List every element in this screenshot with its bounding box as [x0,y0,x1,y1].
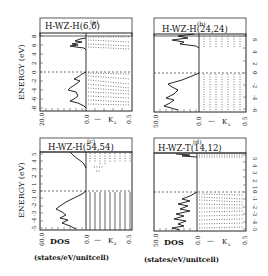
svg-text:1: 1 [31,183,37,187]
svg-text:-8: -8 [31,105,37,111]
svg-text:2: 2 [252,179,258,183]
panel-d-plot: H-WZ-T(14,12) (d) 543210-1-2-3-4-5 50.0 … [134,138,268,276]
svg-text:8: 8 [31,34,37,38]
dos-tick-max: 60.0 [38,232,45,246]
svg-text:3: 3 [252,171,258,175]
svg-text:-2: -2 [31,203,37,208]
y-axis-label: ENERGY (eV) [17,162,26,218]
svg-text:z: z [228,242,231,247]
y-axis-label: ENERGY (eV) [17,44,26,100]
panel-d-label: (d) [193,138,202,145]
svg-text:5: 5 [31,152,37,156]
svg-text:-5: -5 [252,226,258,232]
panel-b-title: H-WZ-H(24,24) [162,24,228,34]
units-label: (states/eV/unitcell) [34,253,109,262]
svg-text:-1: -1 [31,196,37,201]
svg-text:2: 2 [252,62,258,66]
svg-text:0: 0 [31,70,37,74]
svg-text:4: 4 [31,159,37,163]
panel-c-title: H-WZ-H(54,54) [48,142,114,152]
dos-label: DOS [164,237,184,247]
svg-text:-6: -6 [31,96,37,102]
svg-text:-2: -2 [31,79,37,84]
svg-text:6: 6 [31,43,37,47]
panel-b-label: (b) [197,20,206,27]
dos-tick-zero: 0.0 [195,116,202,126]
panel-c-label: (c) [87,137,95,144]
panel-d-title: H-WZ-T(14,12) [158,143,222,153]
svg-text:5: 5 [252,157,258,161]
kz-tick-max: 0.5 [125,114,132,124]
svg-text:-4: -4 [31,217,37,223]
svg-text:-4: -4 [31,87,37,93]
dos-label: DOS [50,236,70,246]
svg-text:-2: -2 [252,204,258,209]
svg-text:-1: -1 [252,196,258,201]
kz-tick-max: 0.5 [125,234,132,244]
svg-text:-4: -4 [252,219,258,225]
svg-text:-5: -5 [31,225,37,231]
kz-tick-max: 0.5 [241,235,248,245]
dos-tick-zero: 0.0 [83,234,90,244]
svg-text:-2: -2 [252,83,258,88]
kz-arrow: — [94,115,101,123]
svg-text:z: z [114,241,117,246]
kz-arrow: — [207,237,214,245]
svg-text:0: 0 [252,71,258,75]
kz-arrow: — [208,117,215,125]
kz-tick-max: 0.5 [241,116,248,126]
svg-text:6: 6 [252,38,258,42]
dos-tick-max: 50.0 [152,233,159,247]
svg-text:-6: -6 [252,107,258,113]
svg-text:2: 2 [31,175,37,179]
svg-text:-3: -3 [252,211,258,217]
svg-text:z: z [228,122,231,127]
dos-tick-zero: 0.0 [194,235,201,245]
panel-d: H-WZ-T(14,12) (d) 543210-1-2-3-4-5 50.0 … [134,138,268,276]
svg-text:4: 4 [31,52,37,56]
svg-text:3: 3 [31,167,37,171]
panel-c: H-WZ-H(54,54) (c) ENERGY (eV) 543210-1-2… [0,138,134,276]
dos-tick-max: 50.0 [152,114,159,128]
dos-tick-zero: 0.0 [83,114,90,124]
svg-text:0: 0 [252,190,258,194]
kz-arrow: — [94,236,101,244]
svg-text:-3: -3 [31,210,37,216]
svg-text:0: 0 [31,189,37,193]
svg-text:2: 2 [31,62,37,66]
dos-tick-max: 20.0 [38,112,45,126]
panel-b-plot: H-WZ-H(24,24) (b) 6420-2-4-6 50.0 0.0 0.… [134,0,268,138]
panel-a-plot: H-WZ-H(6,6) (a) ENERGY (eV) 86420-2-4-6-… [0,0,134,138]
units-label: (states/eV/unitcell) [144,255,219,264]
svg-text:4: 4 [252,164,258,168]
svg-text:-4: -4 [252,95,258,101]
svg-text:z: z [114,120,117,125]
panel-a: H-WZ-H(6,6) (a) ENERGY (eV) 86420-2-4-6-… [0,0,134,138]
panel-a-label: (a) [90,18,98,25]
svg-text:4: 4 [252,50,258,54]
svg-text:1: 1 [252,186,258,190]
panel-c-plot: H-WZ-H(54,54) (c) ENERGY (eV) 543210-1-2… [0,138,134,276]
panel-b: H-WZ-H(24,24) (b) 6420-2-4-6 50.0 0.0 0.… [134,0,268,138]
